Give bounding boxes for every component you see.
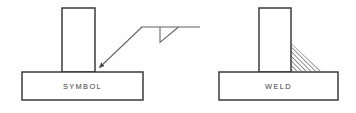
symbol-caption: SYMBOL: [63, 82, 102, 91]
symbol-panel: SYMBOL: [22, 8, 200, 100]
weld-panel: WELD: [219, 8, 338, 100]
fillet-weld-symbol-triangle: [160, 27, 179, 43]
symbol-vertical-plate: [62, 8, 95, 72]
weld-vertical-plate: [259, 8, 291, 72]
welding-symbol-figure: SYMBOL WELD: [0, 0, 356, 113]
weld-caption: WELD: [265, 82, 292, 91]
figure-canvas: SYMBOL WELD: [0, 0, 356, 113]
leader-line: [100, 27, 143, 68]
